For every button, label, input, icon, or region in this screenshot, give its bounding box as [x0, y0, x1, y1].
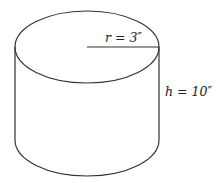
cylinder-diagram: r = 3″ h = 10″ — [0, 0, 219, 183]
radius-label: r = 3″ — [105, 30, 142, 45]
height-label: h = 10″ — [165, 84, 212, 99]
cylinder-bottom-arc — [15, 140, 159, 176]
